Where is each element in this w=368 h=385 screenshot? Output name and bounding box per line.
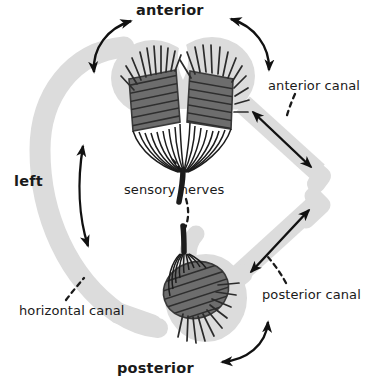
label-anterior: anterior bbox=[136, 3, 204, 18]
label-left: left bbox=[14, 174, 43, 189]
label-anterior-canal: anterior canal bbox=[268, 79, 360, 92]
semicircular-canals-figure: anterior left posterior anterior canal p… bbox=[0, 0, 368, 385]
leader-posterior-canal bbox=[268, 257, 286, 283]
leader-anterior-canal bbox=[286, 94, 295, 119]
label-posterior-canal: posterior canal bbox=[262, 288, 361, 301]
leader-sensory-nerves-lower bbox=[185, 199, 188, 228]
leader-horizontal-canal bbox=[66, 278, 84, 300]
label-horizontal-canal: horizontal canal bbox=[19, 304, 125, 317]
label-posterior: posterior bbox=[117, 361, 194, 376]
label-sensory-nerves: sensory nerves bbox=[124, 183, 224, 196]
leader-sensory-nerves-upper bbox=[172, 159, 184, 179]
